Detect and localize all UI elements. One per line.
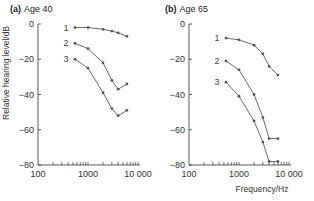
x-tick-label: 1000 — [229, 169, 249, 179]
data-point — [87, 47, 90, 50]
data-point — [102, 28, 105, 31]
data-point — [87, 67, 90, 70]
y-axis-title: Relative hearing level/dB — [1, 26, 11, 120]
data-point — [268, 65, 271, 68]
curve-label: 3 — [215, 77, 220, 87]
data-point — [126, 83, 129, 86]
data-point — [253, 120, 256, 123]
x-axis-title: Frequency/Hz — [236, 184, 289, 194]
data-point — [87, 26, 90, 29]
curve-3 — [75, 59, 127, 115]
y-tick-label: −40 — [170, 90, 185, 100]
y-tick-label: −60 — [170, 125, 185, 135]
data-point — [126, 109, 129, 112]
data-point — [261, 53, 264, 56]
data-point — [110, 107, 113, 110]
y-tick-label: −60 — [19, 125, 34, 135]
panel-age-65: (b)Age 650−20−40−60−80100100010 000123 — [165, 4, 303, 179]
data-point — [117, 88, 120, 91]
x-tick-label: 10 000 — [124, 169, 152, 179]
curve-2 — [226, 61, 278, 139]
hearing-level-chart: Relative hearing level/dB (a)Age 400−20−… — [0, 0, 314, 201]
panel-age-40: (a)Age 400−20−40−60−80100100010 000123 — [10, 4, 152, 179]
data-point — [110, 79, 113, 82]
data-point — [74, 42, 77, 45]
x-tick-label: 1000 — [78, 169, 98, 179]
data-point — [268, 160, 271, 163]
data-point — [74, 58, 77, 61]
data-point — [117, 31, 120, 34]
curve-label: 1 — [64, 23, 69, 33]
curve-label: 2 — [215, 56, 220, 66]
panel-title: (a)Age 40 — [10, 4, 53, 14]
y-tick-label: 0 — [29, 19, 34, 29]
curve-3 — [226, 82, 278, 161]
data-point — [253, 93, 256, 96]
data-point — [277, 160, 280, 163]
y-tick-label: −40 — [19, 90, 34, 100]
data-point — [225, 37, 228, 40]
data-point — [102, 61, 105, 64]
data-point — [261, 141, 264, 144]
data-point — [277, 137, 280, 140]
y-tick-label: 0 — [180, 19, 185, 29]
data-point — [225, 81, 228, 84]
data-point — [238, 68, 241, 71]
data-point — [238, 38, 241, 41]
data-point — [225, 60, 228, 63]
data-point — [110, 30, 113, 33]
data-point — [253, 44, 256, 47]
data-point — [102, 91, 105, 94]
curve-label: 3 — [64, 54, 69, 64]
x-tick-label: 10 000 — [275, 169, 303, 179]
y-tick-label: −20 — [19, 54, 34, 64]
data-point — [277, 74, 280, 77]
curve-label: 2 — [64, 38, 69, 48]
data-point — [238, 95, 241, 98]
curve-2 — [75, 43, 127, 89]
panel-title: (b)Age 65 — [165, 4, 208, 14]
y-tick-label: −20 — [170, 54, 185, 64]
data-point — [117, 114, 120, 117]
data-point — [74, 26, 77, 29]
x-tick-label: 100 — [181, 169, 196, 179]
data-point — [268, 137, 271, 140]
data-point — [261, 116, 264, 119]
curve-1 — [226, 38, 278, 75]
data-point — [126, 35, 129, 38]
curve-label: 1 — [215, 33, 220, 43]
x-tick-label: 100 — [30, 169, 45, 179]
